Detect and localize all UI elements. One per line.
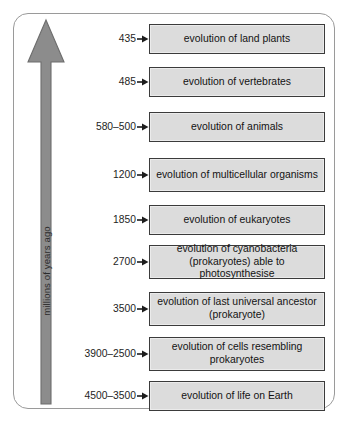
arrow-connector-icon [137, 391, 149, 401]
arrow-connector-icon [137, 349, 149, 359]
arrow-connector-icon [137, 34, 149, 44]
arrow-connector-icon [137, 215, 149, 225]
event-box: evolution of animals [149, 112, 325, 142]
timeline-row: 1850 evolution of eukaryotes [80, 205, 325, 235]
event-box: evolution of cells resembling prokaryote… [149, 337, 325, 371]
arrow-connector-icon [137, 170, 149, 180]
age-label: 1850 [80, 215, 137, 225]
age-label: 3900–2500 [80, 349, 137, 359]
arrow-connector-icon [137, 122, 149, 132]
event-rows: 435 evolution of land plants 485 evoluti… [0, 0, 349, 425]
age-label: 4500–3500 [80, 391, 137, 401]
event-box: evolution of eukaryotes [149, 205, 325, 235]
age-label: 3500 [80, 304, 137, 314]
timeline-row: 4500–3500 evolution of life on Earth [80, 381, 325, 411]
arrow-connector-icon [137, 257, 149, 267]
event-box: evolution of last universal ancestor (pr… [149, 292, 325, 326]
timeline-row: 3900–2500 evolution of cells resembling … [80, 337, 325, 371]
timeline-row: 580–500 evolution of animals [80, 112, 325, 142]
age-label: 2700 [80, 257, 137, 267]
event-box: evolution of multicellular organisms [149, 158, 325, 192]
arrow-connector-icon [137, 304, 149, 314]
event-box: evolution of land plants [149, 24, 325, 54]
timeline-row: 2700 evolution of cyanobacteria (prokary… [80, 245, 325, 279]
timeline-row: 435 evolution of land plants [80, 24, 325, 54]
arrow-connector-icon [137, 77, 149, 87]
timeline-row: 485 evolution of vertebrates [80, 67, 325, 97]
event-box: evolution of cyanobacteria (prokaryotes)… [149, 245, 325, 279]
timeline-row: 3500 evolution of last universal ancesto… [80, 292, 325, 326]
age-label: 1200 [80, 170, 137, 180]
evolution-timeline-figure: millions of years ago 435 evolution of l… [0, 0, 349, 425]
age-label: 580–500 [80, 122, 137, 132]
age-label: 485 [80, 77, 137, 87]
timeline-row: 1200 evolution of multicellular organism… [80, 158, 325, 192]
event-box: evolution of life on Earth [149, 381, 325, 411]
age-label: 435 [80, 34, 137, 44]
event-box: evolution of vertebrates [149, 67, 325, 97]
